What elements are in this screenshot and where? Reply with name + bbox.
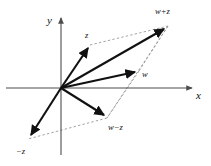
axes-group	[6, 18, 192, 155]
guide-line-z-to-sum	[90, 26, 168, 45]
vectors-group	[31, 29, 164, 135]
vector-minus-z-arrow	[31, 88, 61, 135]
vector-label-minus-z: −z	[16, 146, 26, 156]
vector-label-z: z	[84, 30, 89, 40]
guide-lines-group	[28, 26, 168, 139]
vector-w-plus-z-arrow	[61, 29, 164, 88]
vector-label-w: w	[142, 69, 148, 79]
vector-w-arrow	[61, 72, 135, 88]
vector-label-w-plus-z: w+z	[155, 6, 170, 16]
x-axis-label: x	[195, 89, 201, 101]
vector-diagram-figure: z w w+z w−z −z y x	[0, 0, 211, 166]
guide-line-w-to-sum	[139, 26, 168, 71]
y-axis-label: y	[46, 14, 52, 26]
vector-w-minus-z-arrow	[61, 88, 104, 115]
vector-diagram-canvas: z w w+z w−z −z y x	[0, 0, 211, 166]
vector-label-w-minus-z: w−z	[108, 122, 123, 132]
